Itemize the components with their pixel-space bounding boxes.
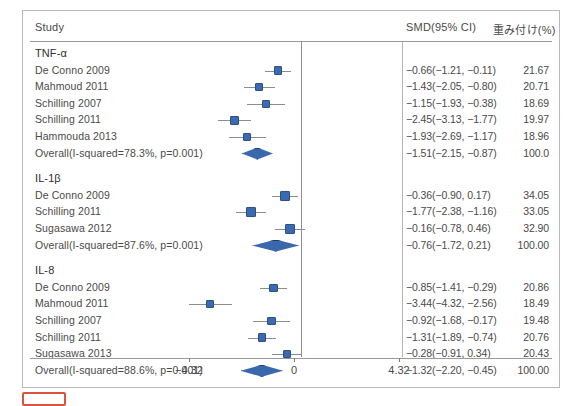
effect-estimate: −1.31(−1.89, −0.74) (406, 331, 497, 343)
axis-tick-label: −4.32 (175, 364, 203, 376)
study-weight: 21.67 (493, 64, 549, 76)
overall-estimate: −1.51(−2.15, −0.87) (406, 147, 497, 159)
effect-marker (255, 83, 263, 91)
study-weight: 18.69 (493, 97, 549, 109)
study-name: Hammouda 2013 (35, 130, 117, 142)
effect-estimate: −0.92(−1.68, −0.17) (406, 314, 497, 326)
study-row[interactable]: Schilling 2007−0.92(−1.68, −0.17)19.48 (30, 313, 553, 329)
study-row[interactable]: Schilling 2011−1.77(−2.38, −1.16)33.05 (30, 204, 553, 220)
overall-estimate: −0.76(−1.72, 0.21) (406, 239, 491, 251)
study-name: De Conno 2009 (35, 189, 110, 201)
effect-marker (243, 133, 251, 141)
column-header-smd: SMD(95% CI) (406, 21, 476, 33)
study-row[interactable]: Mahmoud 2011−3.44(−4.32, −2.56)18.49 (30, 296, 553, 312)
effect-marker (230, 116, 238, 124)
effect-estimate: −1.15(−1.93, −0.38) (406, 97, 497, 109)
effect-estimate: −1.77(−2.38, −1.16) (406, 205, 497, 217)
study-weight: 33.05 (493, 205, 549, 217)
effect-estimate: −1.93(−2.69, −1.17) (406, 130, 497, 142)
study-name: Sugasawa 2012 (35, 222, 112, 234)
study-row[interactable]: Hammouda 2013−1.93(−2.69, −1.17)18.96 (30, 129, 553, 145)
study-weight: 18.96 (493, 130, 549, 142)
study-weight: 18.49 (493, 297, 549, 309)
column-header-study: Study (35, 21, 64, 33)
group-header-row: IL-1β (30, 171, 553, 187)
study-weight: 34.05 (493, 189, 549, 201)
study-weight: 20.86 (493, 281, 549, 293)
study-row[interactable]: Schilling 2011−1.31(−1.89, −0.74)20.76 (30, 330, 553, 346)
effect-marker (206, 300, 214, 308)
overall-label: Overall(I-squared=78.3%, p=0.001) (35, 147, 203, 159)
effect-estimate: −1.43(−2.05, −0.80) (406, 80, 497, 92)
effect-marker (267, 317, 275, 325)
axis-tick-label: 0 (291, 364, 297, 376)
study-weight: 20.71 (493, 80, 549, 92)
overall-row[interactable]: Overall(I-squared=87.6%, p=0.001)−0.76(−… (30, 238, 553, 254)
effect-marker (285, 224, 295, 234)
overall-weight: 100.00 (493, 239, 549, 251)
effect-marker (280, 191, 290, 201)
summary-diamond (242, 148, 273, 160)
study-name: Mahmoud 2011 (35, 297, 108, 309)
study-name: De Conno 2009 (35, 64, 110, 76)
figure-frame: Study SMD(95% CI) 重み付け(%) TNF-αDe Conno … (22, 10, 560, 388)
effect-marker (274, 66, 283, 75)
study-name: Schilling 2011 (35, 205, 101, 217)
overall-weight: 100.0 (493, 147, 549, 159)
group-header-row: IL-8 (30, 263, 553, 279)
study-row[interactable]: Sugasawa 2012−0.16(−0.78, 0.46)32.90 (30, 221, 553, 237)
study-row[interactable]: Schilling 2007−1.15(−1.93, −0.38)18.69 (30, 96, 553, 112)
overall-label: Overall(I-squared=87.6%, p=0.001) (35, 239, 203, 251)
group-header-row: TNF-α (30, 46, 553, 62)
study-row[interactable]: De Conno 2009−0.36(−0.90, 0.17)34.05 (30, 188, 553, 204)
effect-estimate: −2.45(−3.13, −1.77) (406, 113, 497, 125)
column-header-weight: 重み付け(%) (493, 21, 556, 37)
study-weight: 19.97 (493, 113, 549, 125)
effect-marker (269, 284, 277, 292)
study-weight: 32.90 (493, 222, 549, 234)
effect-estimate: −3.44(−4.32, −2.56) (406, 297, 497, 309)
axis-tick (294, 358, 295, 362)
summary-diamond (252, 240, 299, 252)
study-row[interactable]: De Conno 2009−0.85(−1.41, −0.29)20.86 (30, 280, 553, 296)
effect-estimate: −0.85(−1.41, −0.29) (406, 281, 497, 293)
study-row[interactable]: Sugasawa 2013−0.28(−0.91, 0.34)20.43 (30, 346, 553, 362)
plot-area: TNF-αDe Conno 2009−0.66(−1.21, −0.11)21.… (30, 42, 553, 357)
study-name: Schilling 2007 (35, 97, 102, 109)
overall-row[interactable]: Overall(I-squared=78.3%, p=0.001)−1.51(−… (30, 146, 553, 162)
study-row[interactable]: Schilling 2011−2.45(−3.13, −1.77)19.97 (30, 112, 553, 128)
summary-diamond (241, 365, 284, 377)
axis-tick (189, 358, 190, 362)
effect-marker (262, 100, 270, 108)
study-row[interactable]: De Conno 2009−0.66(−1.21, −0.11)21.67 (30, 63, 553, 79)
effect-marker (246, 207, 256, 217)
axis-tick-label: 4.32 (388, 364, 409, 376)
study-name: Mahmoud 2011 (35, 80, 108, 92)
study-weight: 19.48 (493, 314, 549, 326)
effect-estimate: −0.36(−0.90, 0.17) (406, 189, 491, 201)
effect-estimate: −0.66(−1.21, −0.11) (406, 64, 496, 76)
study-name: De Conno 2009 (35, 281, 110, 293)
overall-weight: 100.00 (493, 364, 549, 376)
axis-tick (399, 358, 400, 362)
highlight-box (22, 392, 66, 406)
overall-estimate: −1.32(−2.20, −0.45) (406, 364, 497, 376)
study-row[interactable]: Mahmoud 2011−1.43(−2.05, −0.80)20.71 (30, 79, 553, 95)
study-weight: 20.76 (493, 331, 549, 343)
effect-estimate: −0.16(−0.78, 0.46) (406, 222, 491, 234)
group-label: IL-8 (35, 264, 54, 276)
study-name: Schilling 2011 (35, 113, 101, 125)
group-label: TNF-α (35, 47, 67, 59)
group-label: IL-1β (35, 172, 61, 184)
study-name: Schilling 2011 (35, 331, 101, 343)
effect-marker (258, 333, 266, 341)
study-name: Schilling 2007 (35, 314, 102, 326)
axis-line (30, 358, 552, 359)
